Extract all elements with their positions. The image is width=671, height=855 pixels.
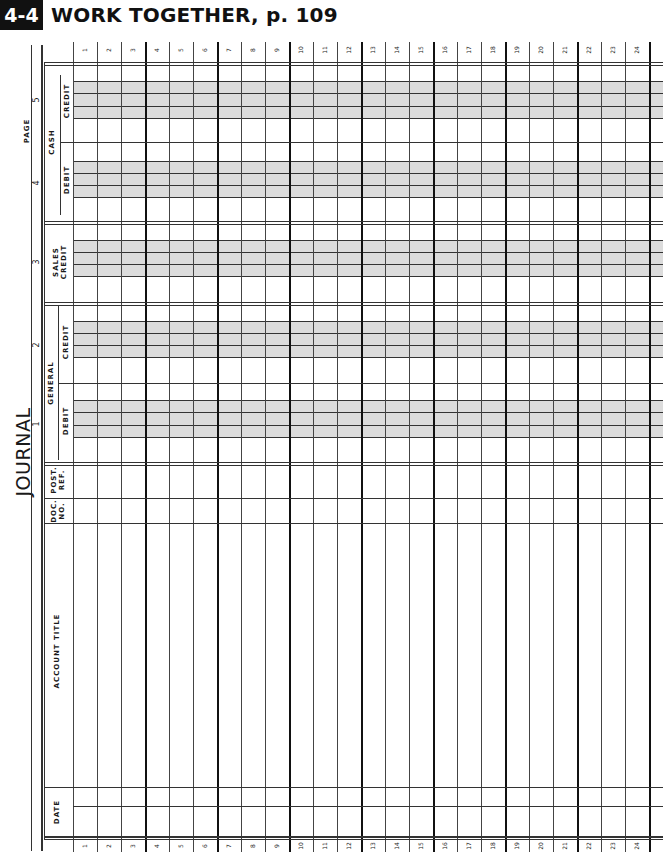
row-number-top: 15 <box>418 46 425 54</box>
row-number-top: 3 <box>130 48 137 52</box>
doc-no-header: DOC. NO. <box>50 499 66 523</box>
band-rule <box>73 437 663 438</box>
cash-group-label: CASH <box>48 129 56 154</box>
section-rule <box>44 836 663 838</box>
section-rule <box>44 305 663 306</box>
row-number-top: 22 <box>586 46 593 54</box>
section-rule <box>44 787 663 788</box>
section-rule <box>44 62 663 63</box>
row-divider <box>337 42 338 852</box>
row-divider <box>457 42 458 852</box>
row-number-bottom: 12 <box>346 842 353 850</box>
row-number-bottom: 15 <box>418 842 425 850</box>
row-number-top: 9 <box>274 48 281 52</box>
row-number-bottom: 5 <box>178 844 185 848</box>
row-divider <box>433 42 435 852</box>
general-credit-header: CREDIT <box>62 325 70 360</box>
row-number-top: 18 <box>490 46 497 54</box>
row-divider <box>169 42 170 852</box>
section-rule <box>58 383 663 384</box>
shaded-band <box>73 81 663 118</box>
row-number-top: 17 <box>466 46 473 54</box>
row-number-top: 1 <box>82 48 89 52</box>
row-number-bottom: 19 <box>514 842 521 850</box>
row-number-bottom: 8 <box>250 844 257 848</box>
band-rule <box>73 357 663 358</box>
row-divider <box>385 42 386 852</box>
band-rule <box>73 185 663 186</box>
cash-divider <box>60 75 61 215</box>
row-number-top: 19 <box>514 46 521 54</box>
section-rule <box>44 224 663 225</box>
frame-line <box>44 62 45 840</box>
row-divider <box>217 42 219 852</box>
row-number-top: 12 <box>346 46 353 54</box>
row-number-bottom: 23 <box>610 842 617 850</box>
sales-credit-header: SALES CREDIT <box>52 245 68 280</box>
band-rule <box>73 333 663 334</box>
frame-line <box>41 45 43 851</box>
row-number-top: 2 <box>106 48 113 52</box>
row-number-bottom: 4 <box>154 844 161 848</box>
row-number-top: 8 <box>250 48 257 52</box>
row-divider <box>145 42 147 852</box>
shaded-band <box>73 321 663 357</box>
row-number-bottom: 7 <box>226 844 233 848</box>
section-rule <box>44 462 663 463</box>
row-divider <box>313 42 314 852</box>
row-number-bottom: 14 <box>394 842 401 850</box>
page-label: PAGE <box>23 119 31 143</box>
section-rule <box>44 523 663 524</box>
row-number-bottom: 24 <box>634 842 641 850</box>
row-divider <box>265 42 266 852</box>
row-number-top: 7 <box>226 48 233 52</box>
row-number-top: 4 <box>154 48 161 52</box>
doc-no-line2: NO. <box>58 499 66 523</box>
band-rule <box>73 425 663 426</box>
section-badge: 4-4 <box>0 0 43 30</box>
row-divider <box>481 42 482 852</box>
row-number-bottom: 20 <box>538 842 545 850</box>
row-number-top: 14 <box>394 46 401 54</box>
row-number-bottom: 6 <box>202 844 209 848</box>
row-divider <box>97 42 98 852</box>
section-rule <box>73 806 663 807</box>
general-group-label: GENERAL <box>47 361 55 404</box>
row-number-bottom: 13 <box>370 842 377 850</box>
row-number-top: 6 <box>202 48 209 52</box>
band-rule <box>73 264 663 265</box>
row-divider <box>625 42 626 852</box>
band-rule <box>73 93 663 94</box>
page-title: WORK TOGETHER, p. 109 <box>51 1 338 29</box>
general-debit-header: DEBIT <box>62 407 70 435</box>
account-title-header: ACCOUNT TITLE <box>53 614 61 689</box>
row-number-bottom: 9 <box>274 844 281 848</box>
sales-credit-line2: CREDIT <box>60 245 68 280</box>
row-number-bottom: 1 <box>82 844 89 848</box>
row-number-top: 16 <box>442 46 449 54</box>
post-ref-header: POST. REF. <box>50 466 66 494</box>
row-number-top: 23 <box>610 46 617 54</box>
row-number-bottom: 16 <box>442 842 449 850</box>
band-rule <box>73 161 663 162</box>
section-rule <box>44 65 663 66</box>
row-number-bottom: 22 <box>586 842 593 850</box>
band-rule <box>73 118 663 119</box>
row-number-top: 24 <box>634 46 641 54</box>
row-number-top: 13 <box>370 46 377 54</box>
section-rule <box>44 302 663 303</box>
row-divider <box>601 42 602 852</box>
section-rule <box>44 465 663 466</box>
band-rule <box>73 252 663 253</box>
row-divider <box>73 42 74 852</box>
row-divider <box>241 42 242 852</box>
band-rule <box>73 240 663 241</box>
shaded-band <box>73 400 663 437</box>
band-rule <box>73 412 663 413</box>
cash-debit-header: DEBIT <box>63 166 71 194</box>
row-number-bottom: 3 <box>130 844 137 848</box>
row-number-top: 21 <box>562 46 569 54</box>
row-divider <box>577 42 579 852</box>
section-rule <box>44 221 663 222</box>
doc-no-line1: DOC. <box>50 499 58 523</box>
